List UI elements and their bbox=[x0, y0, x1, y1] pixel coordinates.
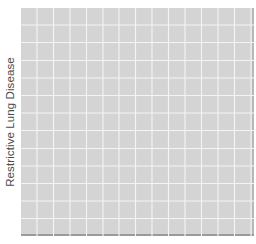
plot-panel bbox=[21, 8, 254, 236]
gridlines bbox=[21, 8, 254, 236]
y-axis-label-container: Restrictive Lung Disease bbox=[0, 8, 20, 236]
y-axis-label: Restrictive Lung Disease bbox=[4, 57, 16, 187]
